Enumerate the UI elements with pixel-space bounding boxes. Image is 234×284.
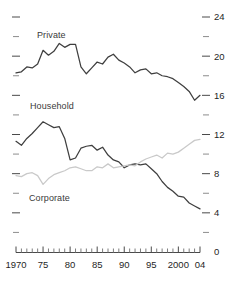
- series-line-corporate: [16, 139, 200, 184]
- x-tick-label: 95: [146, 259, 157, 270]
- series-lines: [16, 43, 200, 208]
- line-chart: 04812162024 19707580859095200004: [0, 0, 234, 284]
- y-tick-label: 8: [214, 168, 219, 179]
- y-tick-label: 20: [214, 51, 225, 62]
- right-axis-ticks: [202, 17, 210, 232]
- x-tick-label: 90: [119, 259, 130, 270]
- x-tick-label: 2000: [168, 259, 189, 270]
- y-tick-label: 12: [214, 129, 225, 140]
- series-line-private: [16, 43, 200, 100]
- series-label-private: Private: [37, 30, 66, 40]
- x-tick-label: 1970: [5, 259, 26, 270]
- y-tick-label: 4: [214, 207, 219, 218]
- chart-container: 04812162024 19707580859095200004 Private…: [0, 0, 234, 284]
- x-tick-label: 85: [92, 259, 103, 270]
- y-tick-label: 0: [214, 246, 219, 257]
- y-tick-label: 16: [214, 90, 225, 101]
- series-label-household: Household: [30, 101, 74, 111]
- series-label-corporate: Corporate: [29, 193, 70, 203]
- x-tick-label: 80: [65, 259, 76, 270]
- x-tick-label: 04: [195, 259, 206, 270]
- x-axis-ticks: [16, 247, 200, 253]
- y-tick-label: 24: [214, 11, 225, 22]
- left-axis-ticks: [12, 17, 20, 232]
- x-axis-tick-labels: 19707580859095200004: [5, 259, 205, 270]
- right-axis-tick-labels: 04812162024: [214, 11, 225, 257]
- x-tick-label: 75: [38, 259, 49, 270]
